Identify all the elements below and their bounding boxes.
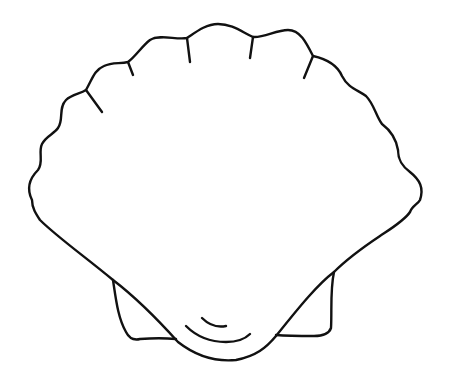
scallop-shell-illustration	[0, 0, 452, 382]
umbo-arc-outer	[186, 326, 250, 342]
umbo-arcs	[186, 318, 250, 342]
umbo-arc-inner	[202, 318, 226, 327]
rib-lines	[86, 37, 313, 112]
rib-line-4	[250, 37, 253, 58]
rib-line-3	[187, 38, 190, 62]
rib-line-5	[304, 56, 313, 78]
rib-line-1	[86, 90, 102, 112]
shell-outline	[29, 24, 421, 360]
rib-line-2	[128, 62, 133, 75]
shell-drawing-canvas: scallop shell outline drawing	[0, 0, 452, 382]
